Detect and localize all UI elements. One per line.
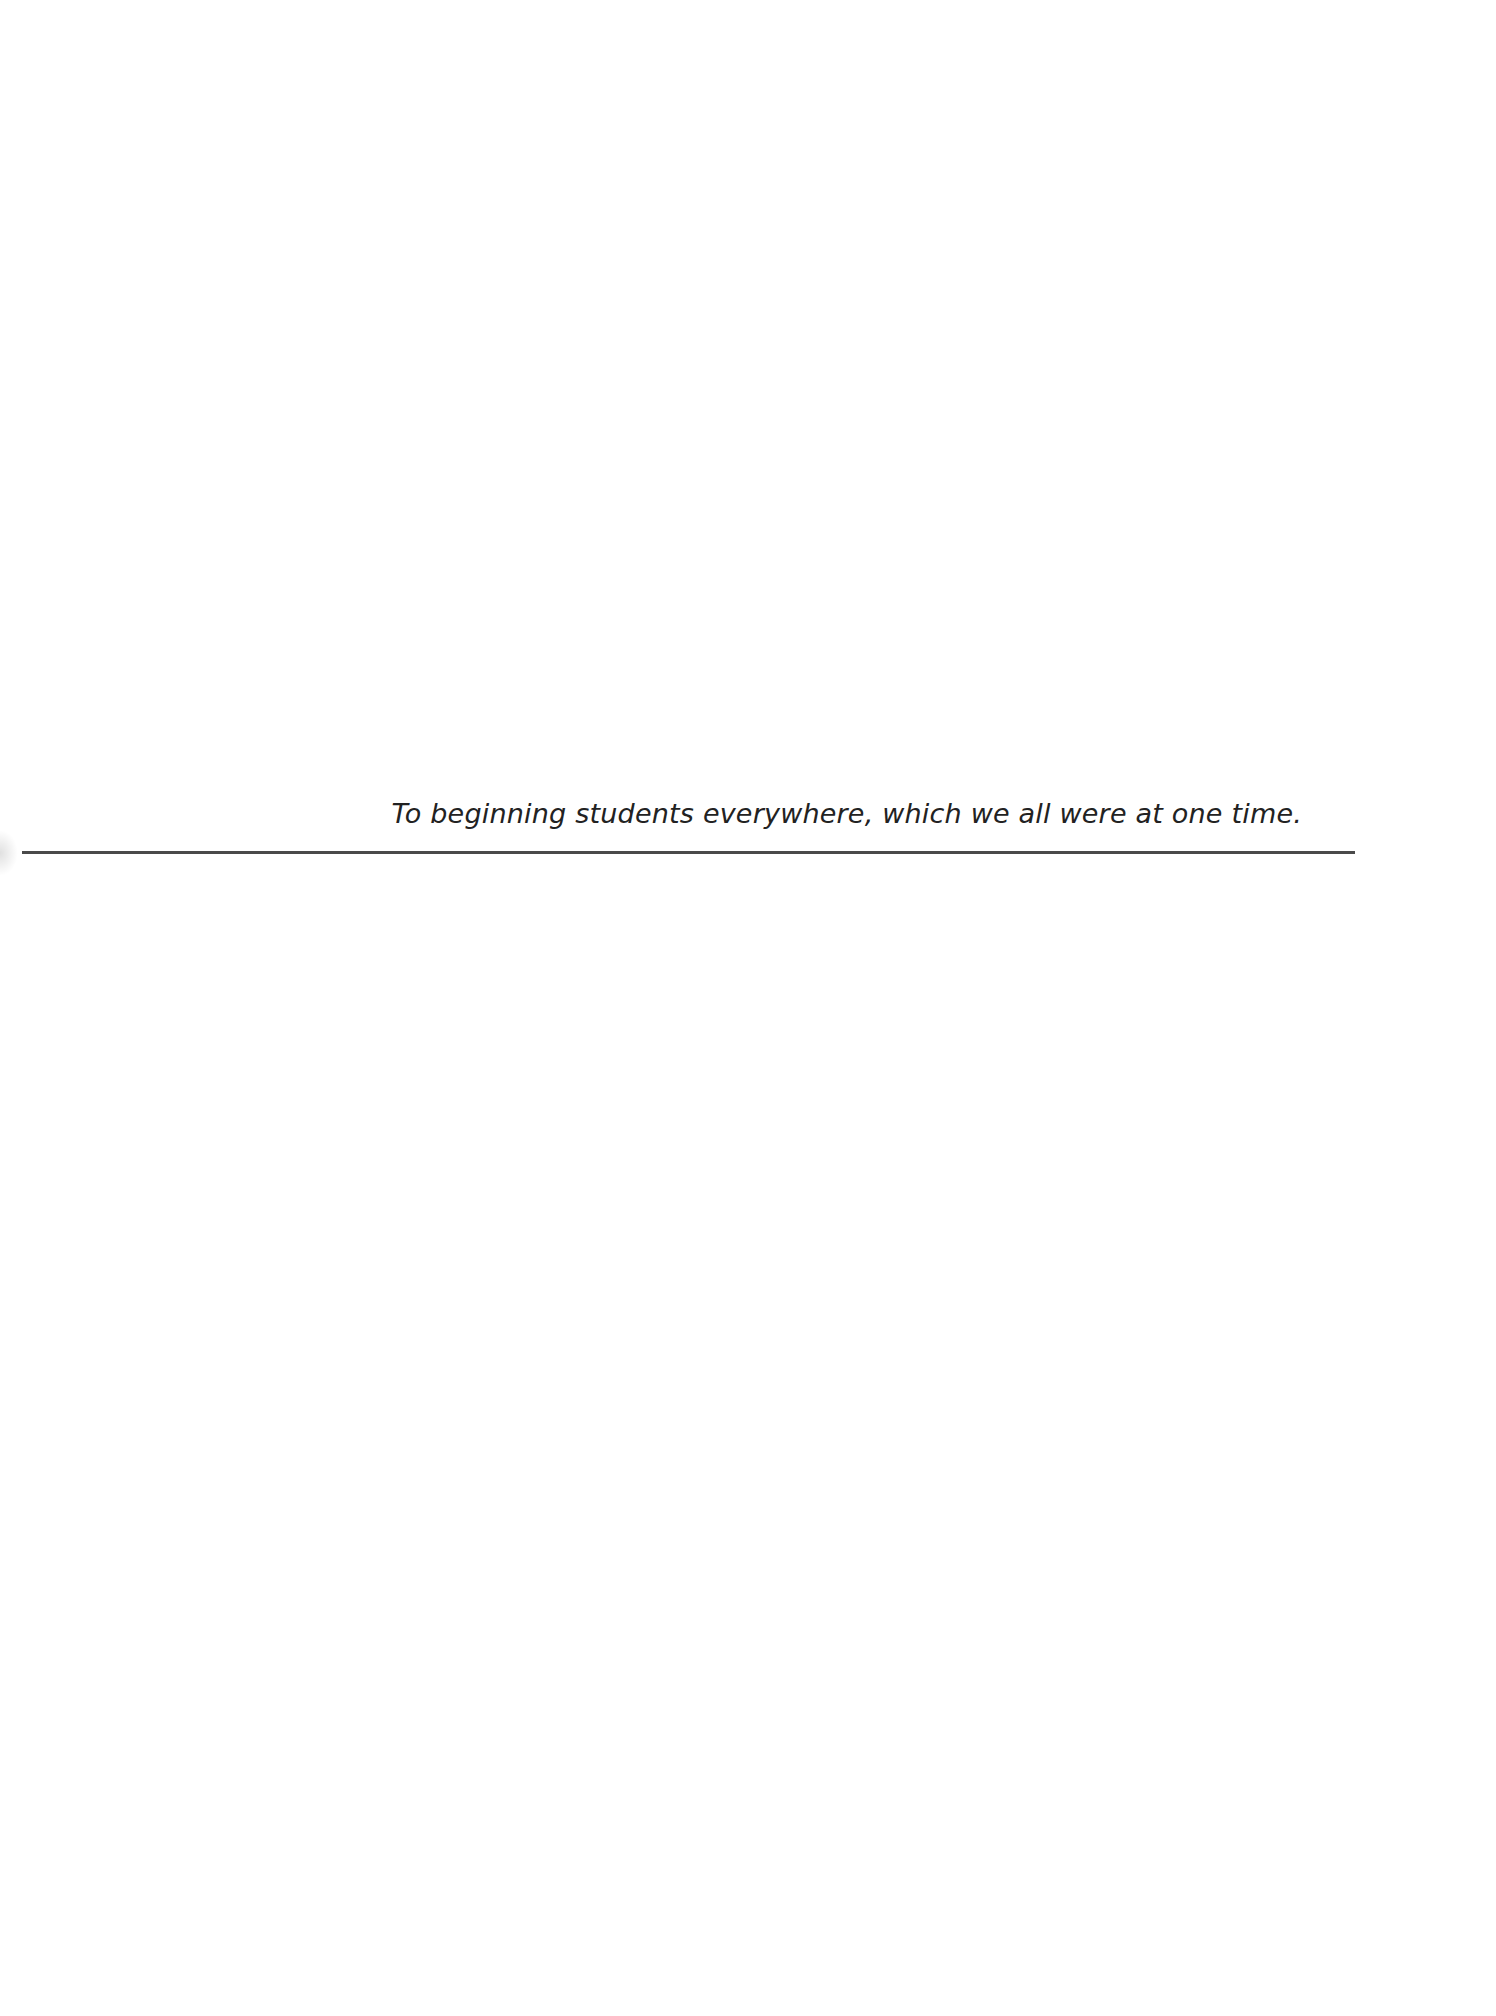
horizontal-rule-divider <box>22 851 1355 854</box>
page-edge-shadow <box>0 830 18 876</box>
dedication-text: To beginning students everywhere, which … <box>391 800 1302 827</box>
